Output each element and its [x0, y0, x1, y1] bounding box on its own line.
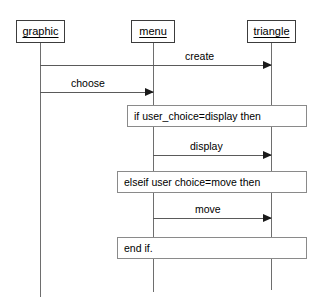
arrowhead-icon [263, 151, 272, 159]
participant-triangle[interactable]: triangle [247, 20, 296, 43]
fragment-end-if[interactable]: end if. [117, 237, 307, 259]
participant-menu[interactable]: menu [131, 20, 175, 43]
fragment-end-if-label: end if. [118, 243, 153, 254]
participant-menu-label: menu [139, 26, 167, 37]
fragment-if-branch[interactable]: if user_choice=display then [127, 105, 307, 127]
participant-triangle-label: triangle [253, 26, 289, 37]
message-create-arrow [40, 65, 271, 66]
fragment-if-branch-label: if user_choice=display then [128, 111, 261, 122]
message-display-arrow [153, 155, 271, 156]
message-display-label: display [190, 141, 223, 152]
arrowhead-icon [145, 88, 154, 96]
arrowhead-icon [263, 214, 272, 222]
message-move-label: move [195, 204, 221, 215]
message-choose-arrow [40, 92, 153, 93]
lifeline-graphic [40, 43, 41, 297]
arrowhead-icon [263, 61, 272, 69]
participant-graphic-label: graphic [22, 26, 58, 37]
fragment-elseif-branch[interactable]: elseif user choice=move then [117, 171, 307, 193]
message-choose-label: choose [71, 78, 105, 89]
participant-graphic[interactable]: graphic [16, 20, 65, 43]
sequence-diagram-canvas: graphic menu triangle create choose if u… [0, 0, 334, 308]
message-create-label: create [185, 51, 214, 62]
message-move-arrow [153, 218, 271, 219]
fragment-elseif-branch-label: elseif user choice=move then [118, 177, 260, 188]
